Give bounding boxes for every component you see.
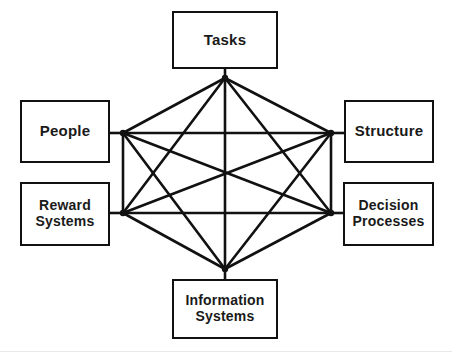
node-box-information-systems[interactable]: Information Systems bbox=[172, 279, 278, 339]
node-label-reward-systems: Reward Systems bbox=[33, 198, 98, 229]
node-box-structure[interactable]: Structure bbox=[344, 100, 434, 163]
edge-reward-systems-to-information-systems bbox=[123, 213, 225, 269]
node-box-decision-processes[interactable]: Decision Processes bbox=[343, 182, 434, 246]
node-box-tasks[interactable]: Tasks bbox=[172, 11, 278, 69]
hub-node-structure bbox=[328, 130, 334, 136]
organization-design-diagram: Tasks People Structure Reward Systems De… bbox=[0, 0, 452, 355]
hub-node-information-systems bbox=[222, 266, 228, 272]
edges-group bbox=[123, 78, 331, 269]
hub-node-reward-systems bbox=[120, 210, 126, 216]
node-box-reward-systems[interactable]: Reward Systems bbox=[20, 182, 110, 246]
edge-decision-processes-to-information-systems bbox=[225, 213, 331, 269]
hub-node-tasks bbox=[222, 75, 228, 81]
node-box-people[interactable]: People bbox=[20, 100, 110, 163]
node-label-tasks: Tasks bbox=[201, 32, 249, 49]
hub-node-people bbox=[120, 130, 126, 136]
node-label-decision-processes: Decision Processes bbox=[350, 198, 428, 229]
edge-tasks-to-structure bbox=[225, 78, 331, 133]
hub-node-decision-processes bbox=[328, 210, 334, 216]
edge-tasks-to-people bbox=[123, 78, 225, 133]
node-label-structure: Structure bbox=[352, 123, 426, 140]
scan-artifact-line bbox=[0, 351, 452, 352]
node-label-information-systems: Information Systems bbox=[182, 293, 267, 324]
node-label-people: People bbox=[37, 123, 93, 140]
